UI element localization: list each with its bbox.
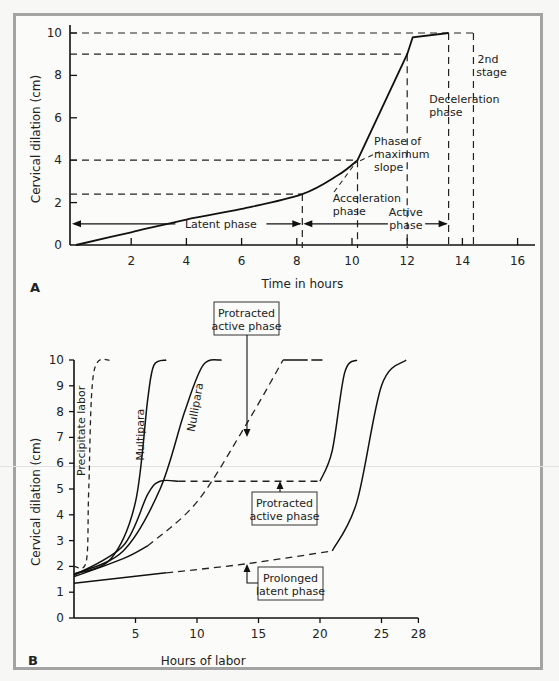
panel-b: 51015202528012345678910Hours of laborCer… <box>28 302 426 668</box>
acceleration-phase-label: Acceleration <box>333 192 401 205</box>
nullipara-label: Nullipara <box>185 382 206 433</box>
active-phase-label: phase <box>389 219 422 232</box>
y-tick-label: 3 <box>56 534 64 548</box>
multipara-label: Multipara <box>134 409 147 461</box>
active-phase-label: Active <box>389 206 423 219</box>
panel-a-label: A <box>30 280 40 295</box>
x-tick-label: 6 <box>238 254 246 268</box>
x-tick-label: 15 <box>251 627 266 641</box>
labor-curves-figure: 2468101214160246810Time in hoursCervical… <box>0 0 559 681</box>
deceleration-phase-label: phase <box>429 106 462 119</box>
x-tick-label: 28 <box>411 627 426 641</box>
arrowhead-left-icon <box>72 220 81 227</box>
protracted-active-phase-top-text: Protracted <box>218 307 275 320</box>
protracted-active-phase-mid-text: Protracted <box>256 497 313 510</box>
y-axis-title: Cervical dilation (cm) <box>29 438 43 566</box>
arrowhead-up-icon <box>244 564 251 572</box>
y-tick-label: 0 <box>54 238 62 252</box>
arrowhead-right-icon <box>439 220 448 227</box>
x-tick-label: 8 <box>293 254 301 268</box>
arrest-curve-recovery <box>320 360 357 481</box>
prolonged-latent-phase-text: latent phase <box>256 585 325 598</box>
y-tick-label: 6 <box>56 456 64 470</box>
deceleration-phase-label: Deceleration <box>429 93 499 106</box>
y-axis-title: Cervical dilation (cm) <box>29 75 43 203</box>
max-slope-label: slope <box>374 161 403 174</box>
precipitate-labor-label: Precipitate labor <box>75 385 88 476</box>
y-tick-label: 8 <box>56 405 64 419</box>
y-tick-label: 0 <box>56 611 64 625</box>
x-axis-title: Hours of labor <box>161 654 246 668</box>
x-tick-label: 25 <box>374 627 389 641</box>
x-tick-label: 5 <box>132 627 140 641</box>
x-tick-label: 16 <box>510 254 525 268</box>
x-tick-label: 10 <box>189 627 204 641</box>
x-tick-label: 2 <box>127 254 135 268</box>
x-axis-title: Time in hours <box>260 277 343 291</box>
second-stage-label: stage <box>476 66 507 79</box>
prolonged-latent-phase-text: Prolonged <box>263 572 318 585</box>
prolonged-latent-rise <box>332 360 406 551</box>
y-tick-label: 7 <box>56 430 64 444</box>
x-tick-label: 20 <box>312 627 327 641</box>
y-tick-label: 1 <box>56 585 64 599</box>
y-tick-label: 2 <box>54 196 62 210</box>
y-tick-label: 4 <box>54 153 62 167</box>
max-slope-label: maximum <box>374 148 429 161</box>
y-tick-label: 5 <box>56 482 64 496</box>
y-tick-label: 10 <box>47 26 62 40</box>
panel-b-label: B <box>28 653 38 668</box>
y-tick-label: 9 <box>56 379 64 393</box>
second-stage-label: 2nd <box>478 53 499 66</box>
x-tick-label: 14 <box>455 254 470 268</box>
x-tick-label: 10 <box>344 254 359 268</box>
arrowhead-down-icon <box>244 429 251 437</box>
arrest-curve-solid <box>74 480 179 575</box>
arrowhead-up-icon <box>277 481 284 489</box>
x-tick-label: 12 <box>400 254 415 268</box>
y-tick-label: 2 <box>56 559 64 573</box>
y-tick-label: 4 <box>56 508 64 522</box>
y-tick-label: 6 <box>54 111 62 125</box>
protracted-curve-solid <box>74 546 148 577</box>
prolonged-latent-solid <box>74 573 166 583</box>
acceleration-phase-label: phase <box>333 205 366 218</box>
max-slope-label: Phase of <box>374 135 422 148</box>
latent-phase-label: Latent phase <box>185 218 257 231</box>
y-tick-label: 10 <box>49 353 64 367</box>
arrowhead-right-icon <box>292 220 301 227</box>
x-tick-label: 4 <box>183 254 191 268</box>
y-tick-label: 8 <box>54 68 62 82</box>
panel-a: 2468101214160246810Time in hoursCervical… <box>29 25 535 295</box>
protracted-active-phase-mid-text: active phase <box>249 510 319 523</box>
protracted-active-phase-top-text: active phase <box>211 320 281 333</box>
